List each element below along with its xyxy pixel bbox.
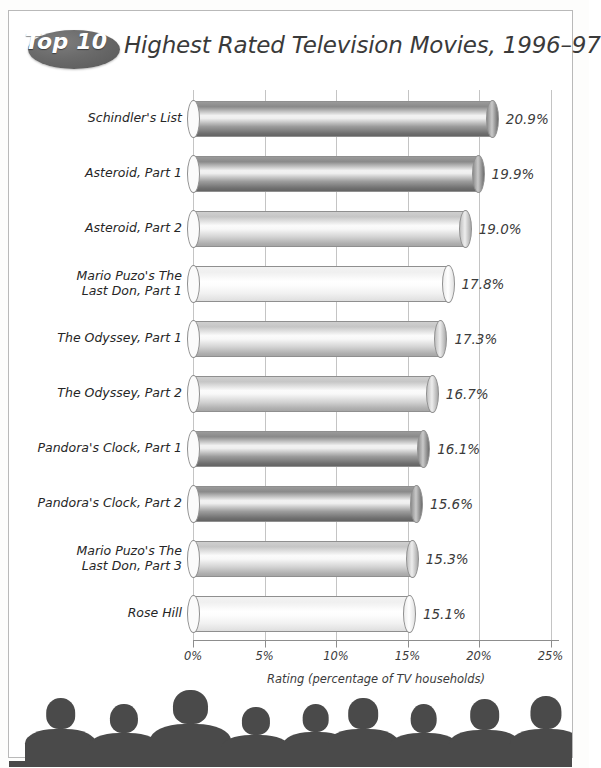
bar-value-label: 20.9% (506, 101, 549, 137)
bar-left-cap (187, 155, 200, 193)
bar-category-label: The Odyssey, Part 2 (20, 365, 184, 420)
bar-row[interactable]: Schindler's List20.9% (20, 90, 565, 145)
bar-row[interactable]: Pandora's Clock, Part 116.1% (20, 420, 565, 475)
bar-left-cap (187, 265, 200, 303)
bar-body (193, 486, 416, 522)
audience-head (173, 690, 207, 724)
bar-left-cap (187, 100, 200, 138)
page-title: Highest Rated Television Movies, 1996–97 (124, 32, 601, 58)
bar-right-cap (417, 430, 430, 468)
bar-left-cap (187, 540, 200, 578)
bar-category-label: The Odyssey, Part 1 (20, 310, 184, 365)
bar-right-cap (486, 100, 499, 138)
bar-category-label: Mario Puzo's The Last Don, Part 1 (20, 255, 184, 310)
bar-right-cap (442, 265, 455, 303)
bar[interactable] (193, 596, 409, 632)
bar-category-label: Asteroid, Part 2 (20, 200, 184, 255)
x-tick-mark (408, 640, 409, 647)
bar-category-label: Pandora's Clock, Part 1 (20, 420, 184, 475)
bar-left-cap (187, 485, 200, 523)
x-tick-mark (265, 640, 266, 647)
bar-right-cap (406, 540, 419, 578)
x-tick-mark (336, 640, 337, 647)
bar[interactable] (193, 431, 423, 467)
audience-shoulders (222, 735, 289, 763)
bar-row[interactable]: Asteroid, Part 119.9% (20, 145, 565, 200)
audience-person (25, 698, 96, 763)
bar-right-cap (472, 155, 485, 193)
audience-shoulders (89, 733, 159, 763)
bar[interactable] (193, 266, 448, 302)
audience-shoulders (328, 729, 399, 763)
audience-person (390, 704, 458, 763)
x-tick-mark (551, 640, 552, 647)
audience-person (222, 707, 289, 763)
bar-right-cap (459, 210, 472, 248)
audience-head (470, 699, 500, 730)
bar-left-cap (187, 210, 200, 248)
x-axis-title: Rating (percentage of TV households) (193, 672, 559, 686)
bar-chart: Schindler's List20.9%Asteroid, Part 119.… (20, 82, 565, 662)
bar-category-label: Pandora's Clock, Part 2 (20, 475, 184, 530)
bar-body (193, 321, 440, 357)
x-tick-label: 10% (323, 649, 349, 663)
x-tick-mark (479, 640, 480, 647)
bar-row[interactable]: Mario Puzo's The Last Don, Part 117.8% (20, 255, 565, 310)
audience-shoulders (390, 733, 458, 763)
top10-badge-label: Top 10 (20, 22, 112, 61)
bar-body (193, 101, 492, 137)
bar-value-label: 15.1% (423, 596, 466, 632)
x-tick-label: 0% (184, 649, 202, 663)
bar-value-label: 19.9% (492, 156, 535, 192)
bar-left-cap (187, 320, 200, 358)
x-axis-line (193, 640, 559, 641)
bar-row[interactable]: The Odyssey, Part 117.3% (20, 310, 565, 365)
audience-head (242, 707, 270, 735)
bar-value-label: 15.3% (426, 541, 469, 577)
audience-person (510, 696, 572, 763)
bar-category-label: Rose Hill (20, 585, 184, 640)
bar[interactable] (193, 486, 416, 522)
x-tick-label: 20% (466, 649, 492, 663)
bar-left-cap (187, 595, 200, 633)
bar-category-label: Asteroid, Part 1 (20, 145, 184, 200)
audience-head (46, 698, 76, 729)
bar-left-cap (187, 430, 200, 468)
bar-row[interactable]: Pandora's Clock, Part 215.6% (20, 475, 565, 530)
bar[interactable] (193, 541, 412, 577)
bar-value-label: 16.7% (446, 376, 489, 412)
bar-body (193, 211, 465, 247)
bar-body (193, 431, 423, 467)
bar-body (193, 156, 478, 192)
x-tick-label: 25% (538, 649, 564, 663)
bar-right-cap (434, 320, 447, 358)
bar[interactable] (193, 101, 492, 137)
bar[interactable] (193, 376, 432, 412)
bar-value-label: 15.6% (430, 486, 473, 522)
audience-person (328, 698, 399, 763)
bar-value-label: 17.3% (454, 321, 497, 357)
audience-person (150, 690, 231, 763)
bar-body (193, 266, 448, 302)
bar-category-label: Mario Puzo's The Last Don, Part 3 (20, 530, 184, 585)
x-tick-label: 15% (395, 649, 421, 663)
x-tick-mark (193, 640, 194, 647)
bar[interactable] (193, 321, 440, 357)
x-tick-label: 5% (255, 649, 273, 663)
audience-head (302, 704, 329, 732)
audience-head (531, 696, 562, 729)
bar-row[interactable]: The Odyssey, Part 216.7% (20, 365, 565, 420)
bar-left-cap (187, 375, 200, 413)
bar-row[interactable]: Rose Hill15.1% (20, 585, 565, 640)
bar-body (193, 541, 412, 577)
bar-value-label: 16.1% (437, 431, 480, 467)
bar[interactable] (193, 156, 478, 192)
audience-head (110, 704, 138, 734)
bar-row[interactable]: Asteroid, Part 219.0% (20, 200, 565, 255)
audience-head (411, 704, 438, 734)
audience-silhouettes (9, 687, 572, 767)
bar-row[interactable]: Mario Puzo's The Last Don, Part 315.3% (20, 530, 565, 585)
bar-category-label: Schindler's List (20, 90, 184, 145)
bar[interactable] (193, 211, 465, 247)
